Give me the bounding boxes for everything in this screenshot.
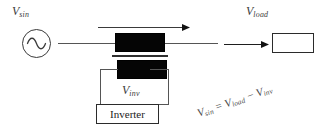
wire-transformer-to-load <box>165 43 218 44</box>
wire-secondary-right-top <box>150 69 169 70</box>
arrow-right-icon <box>98 23 190 32</box>
vinv-label-subscript: inv <box>129 89 139 98</box>
wire-source-to-transformer <box>58 43 116 44</box>
wire-secondary-left-vertical <box>100 69 101 104</box>
equation-label: Vsin = Vload − Vinv <box>196 83 274 121</box>
wire-secondary-left-top <box>100 69 118 70</box>
current-flow-arrow <box>98 18 190 36</box>
circuit-diagram-canvas: Vsin Vload Vinv Inverter <box>0 0 332 132</box>
vload-label-subscript: load <box>253 10 268 19</box>
arrow-right-icon <box>224 40 269 49</box>
ac-voltage-source-symbol <box>22 29 51 58</box>
transformer-core-line <box>112 55 168 57</box>
vinv-label: Vinv <box>122 84 140 98</box>
inverter-label: Inverter <box>110 109 145 120</box>
equation-rhs2-sub: inv <box>262 87 274 98</box>
load-box <box>272 33 314 53</box>
wire-secondary-right-vertical <box>168 69 169 104</box>
inverter-box: Inverter <box>96 104 159 124</box>
load-current-arrow <box>224 35 269 53</box>
sine-wave-icon <box>23 30 50 57</box>
vsin-label-subscript: sin <box>19 10 29 19</box>
vsin-label: Vsin <box>12 5 29 19</box>
vload-label: Vload <box>246 5 268 19</box>
